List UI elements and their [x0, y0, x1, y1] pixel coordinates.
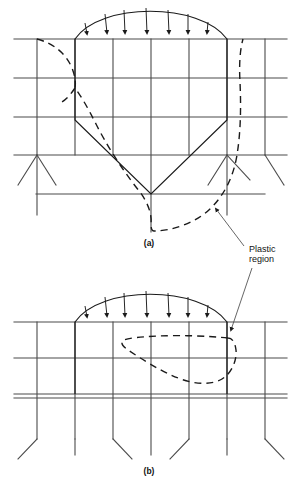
plastic-region-label-line1: Plastic — [249, 244, 276, 254]
plastic-region-label-line2: region — [249, 254, 274, 264]
panel-a-vertical-grid — [37, 39, 265, 232]
panel-b-plastic-boundary — [122, 336, 236, 384]
plastic-region-figure: (a) Plastic region — [0, 0, 301, 493]
figure-container: (a) Plastic region — [0, 0, 301, 493]
plastic-region-leader-a — [216, 209, 244, 246]
caption-b: (b) — [144, 466, 155, 476]
panel-a-plastic-boundary-tail — [60, 88, 75, 103]
panel-b-load-curve — [75, 294, 227, 322]
panel-a-load-curve — [75, 11, 227, 39]
plastic-region-annotation: Plastic region — [216, 209, 276, 330]
panel-b — [14, 291, 287, 459]
panel-b-load-arrows — [85, 291, 208, 317]
panel-a-load-arrows — [85, 8, 208, 34]
panel-a — [14, 8, 287, 232]
caption-a: (a) — [144, 238, 155, 248]
plastic-region-leader-b — [231, 268, 252, 330]
panel-b-vertical-grid — [37, 322, 265, 455]
